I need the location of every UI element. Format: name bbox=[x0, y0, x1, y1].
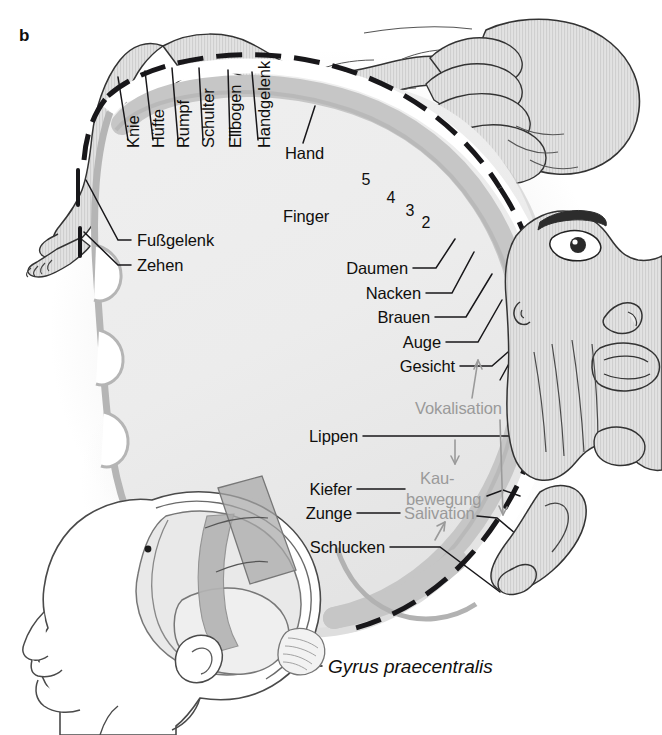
cortex-label-schulter: Schulter bbox=[200, 88, 217, 148]
cortex-label-zehen: Zehen bbox=[137, 257, 183, 274]
cortex-label-brauen: Brauen bbox=[377, 309, 430, 326]
cortex-label-knie: Knie bbox=[125, 115, 142, 148]
homunculus-figure: b Knie Hüfte Rumpf Schulter Ellbogen Han… bbox=[0, 0, 662, 735]
cortex-label-fussgelenk: Fußgelenk bbox=[137, 232, 214, 249]
finger-number-3: 3 bbox=[406, 202, 415, 220]
cortex-label-auge: Auge bbox=[403, 334, 441, 351]
finger-number-2: 2 bbox=[422, 214, 431, 232]
cortex-label-daumen: Daumen bbox=[346, 260, 408, 277]
cortex-label-handgelenk: Handgelenk bbox=[256, 61, 273, 148]
cortex-label-gesicht: Gesicht bbox=[400, 358, 455, 375]
finger-number-5: 5 bbox=[362, 171, 371, 189]
cortex-label-salivation: Salivation bbox=[404, 505, 475, 522]
cortex-label-lippen: Lippen bbox=[309, 428, 358, 445]
panel-letter: b bbox=[19, 26, 29, 46]
homunculus-face-icon bbox=[505, 210, 662, 480]
cortex-label-finger: Finger bbox=[283, 208, 329, 225]
figure-artwork bbox=[0, 0, 662, 735]
caption-gyrus-praecentralis: Gyrus praecentralis bbox=[328, 657, 493, 676]
cortex-label-ellbogen: Ellbogen bbox=[227, 85, 244, 148]
cortex-label-schlucken: Schlucken bbox=[310, 539, 385, 556]
finger-number-4: 4 bbox=[387, 189, 396, 207]
cortex-label-kiefer: Kiefer bbox=[309, 481, 352, 498]
cortex-label-nacken: Nacken bbox=[366, 285, 421, 302]
cortex-label-zunge: Zunge bbox=[306, 505, 352, 522]
cortex-label-hand: Hand bbox=[285, 145, 324, 162]
cortex-label-kau: Kau- bbox=[420, 470, 454, 487]
cortex-label-huefte: Hüfte bbox=[150, 109, 167, 148]
cortex-label-rumpf: Rumpf bbox=[175, 100, 192, 148]
cortex-label-vokalisation: Vokalisation bbox=[415, 400, 502, 417]
